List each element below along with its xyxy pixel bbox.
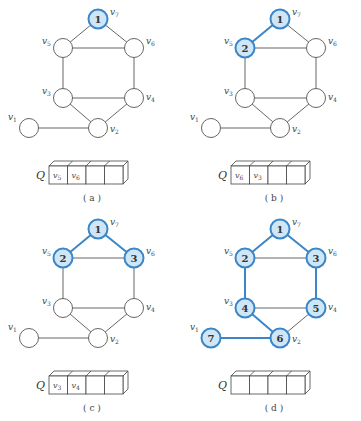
panel-caption: ( a ) <box>83 193 101 203</box>
vertex-v4: v4 <box>125 299 156 318</box>
queue-cell <box>287 166 306 184</box>
vertex-label: v3 <box>42 86 51 97</box>
vertex-v3: v3 <box>42 86 73 108</box>
vertex-label: v2 <box>110 334 119 345</box>
queue: Qv3v4 <box>36 371 128 394</box>
node-circle <box>20 119 39 138</box>
vertex-label: v1 <box>8 112 17 123</box>
vertex-label: v6 <box>146 246 155 257</box>
queue-label: Q <box>218 169 227 182</box>
vertex-v1: v1 <box>8 112 39 138</box>
queue: Qv6v3 <box>218 161 310 184</box>
vertex-label: v1 <box>190 322 199 333</box>
vertex-v2: v2 <box>271 119 302 138</box>
visit-order-number: 2 <box>60 253 67 264</box>
vertex-label: v7 <box>110 217 119 228</box>
panel-d: 1v72v53v64v35v46v27v1Q( d ) <box>190 217 337 413</box>
queue-cell <box>268 376 287 394</box>
vertex-v6: v6 <box>125 36 156 58</box>
queue: Qv5v6 <box>36 161 128 184</box>
vertex-label: v6 <box>146 36 155 47</box>
vertex-v5: 2v5 <box>42 246 73 268</box>
node-circle <box>54 299 73 318</box>
vertex-label: v6 <box>328 36 337 47</box>
vertex-v4: 5v4 <box>307 299 338 318</box>
panel-caption: ( d ) <box>265 403 284 413</box>
node-circle <box>89 329 108 348</box>
queue: Q <box>218 371 310 394</box>
node-circle <box>125 39 144 58</box>
visit-order-number: 2 <box>242 253 249 264</box>
visit-order-number: 5 <box>313 303 320 314</box>
vertex-v7: 1v7 <box>89 7 120 29</box>
vertex-label: v3 <box>42 296 51 307</box>
vertex-v3: v3 <box>42 296 73 318</box>
vertex-label: v4 <box>328 302 337 313</box>
visit-order-number: 3 <box>313 253 320 264</box>
node-circle <box>307 39 326 58</box>
node-circle <box>125 89 144 108</box>
bfs-diagram: 1v7v5v6v3v4v2v1Qv5v6( a )1v72v5v6v3v4v2v… <box>0 0 361 421</box>
vertex-label: v1 <box>190 112 199 123</box>
vertex-label: v4 <box>146 302 155 313</box>
vertex-label: v7 <box>292 7 301 18</box>
vertex-label: v4 <box>328 92 337 103</box>
vertex-label: v7 <box>292 217 301 228</box>
node-circle <box>307 89 326 108</box>
queue-label: Q <box>36 169 45 182</box>
vertex-v1: 7v1 <box>190 322 221 348</box>
vertex-label: v4 <box>146 92 155 103</box>
vertex-v7: 1v7 <box>271 217 302 239</box>
vertex-label: v6 <box>328 246 337 257</box>
vertex-v5: v5 <box>42 36 73 58</box>
vertex-v7: 1v7 <box>271 7 302 29</box>
queue-cell <box>86 376 105 394</box>
vertex-label: v5 <box>42 246 51 257</box>
visit-order-number: 1 <box>277 14 284 25</box>
vertex-label: v5 <box>42 36 51 47</box>
queue-cell <box>250 376 269 394</box>
vertex-v2: v2 <box>89 119 120 138</box>
visit-order-number: 7 <box>208 333 215 344</box>
node-circle <box>89 119 108 138</box>
visit-order-number: 1 <box>277 224 284 235</box>
queue-cell <box>86 166 105 184</box>
vertex-label: v2 <box>292 334 301 345</box>
visit-order-number: 1 <box>95 14 102 25</box>
vertex-v5: 2v5 <box>224 246 255 268</box>
queue-cell <box>105 376 124 394</box>
vertex-label: v1 <box>8 322 17 333</box>
vertex-label: v3 <box>224 296 233 307</box>
vertex-v4: v4 <box>125 89 156 108</box>
vertex-v5: 2v5 <box>224 36 255 58</box>
vertex-v1: v1 <box>190 112 221 138</box>
panel-caption: ( c ) <box>83 403 101 413</box>
vertex-label: v2 <box>110 124 119 135</box>
vertex-label: v5 <box>224 36 233 47</box>
node-circle <box>271 119 290 138</box>
visit-order-number: 4 <box>242 303 249 314</box>
vertex-label: v5 <box>224 246 233 257</box>
node-circle <box>54 89 73 108</box>
panel-c: 1v72v53v6v3v4v2v1Qv3v4( c ) <box>8 217 155 413</box>
node-circle <box>202 119 221 138</box>
queue-cell <box>231 376 250 394</box>
vertex-v6: 3v6 <box>307 246 338 268</box>
queue-cell <box>105 166 124 184</box>
vertex-label: v3 <box>224 86 233 97</box>
vertex-label: v2 <box>292 124 301 135</box>
node-circle <box>54 39 73 58</box>
queue-label: Q <box>36 379 45 392</box>
vertex-v2: v2 <box>89 329 120 348</box>
visit-order-number: 1 <box>95 224 102 235</box>
panel-b: 1v72v5v6v3v4v2v1Qv6v3( b ) <box>190 7 337 203</box>
queue-label: Q <box>218 379 227 392</box>
panel-caption: ( b ) <box>265 193 284 203</box>
visit-order-number: 2 <box>242 43 249 54</box>
vertex-label: v7 <box>110 7 119 18</box>
vertex-v6: v6 <box>307 36 338 58</box>
vertex-v3: v3 <box>224 86 255 108</box>
visit-order-number: 3 <box>131 253 138 264</box>
queue-cell <box>287 376 306 394</box>
vertex-v6: 3v6 <box>125 246 156 268</box>
